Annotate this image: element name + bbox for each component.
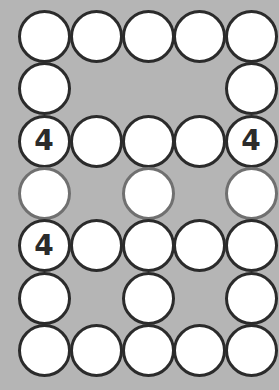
- empty-cell[interactable]: [18, 10, 71, 63]
- empty-cell[interactable]: [70, 324, 123, 377]
- empty-cell[interactable]: [225, 272, 278, 325]
- empty-cell[interactable]: [18, 272, 71, 325]
- empty-cell[interactable]: [122, 324, 175, 377]
- puzzle-board: 444: [0, 0, 279, 390]
- numbered-cell[interactable]: 4: [18, 115, 71, 168]
- empty-cell[interactable]: [122, 115, 175, 168]
- empty-cell[interactable]: [122, 10, 175, 63]
- empty-cell[interactable]: [173, 324, 226, 377]
- empty-cell[interactable]: [173, 115, 226, 168]
- numbered-cell[interactable]: 4: [18, 219, 71, 272]
- cell-number: 4: [241, 127, 260, 155]
- empty-cell[interactable]: [122, 219, 175, 272]
- empty-cell[interactable]: [173, 219, 226, 272]
- empty-cell[interactable]: [70, 10, 123, 63]
- empty-cell[interactable]: [225, 62, 278, 115]
- numbered-cell[interactable]: 4: [225, 115, 278, 168]
- empty-cell[interactable]: [70, 115, 123, 168]
- empty-cell[interactable]: [173, 10, 226, 63]
- empty-cell[interactable]: [225, 10, 278, 63]
- empty-cell[interactable]: [70, 219, 123, 272]
- empty-cell[interactable]: [225, 324, 278, 377]
- empty-cell[interactable]: [225, 167, 278, 220]
- empty-cell[interactable]: [122, 167, 175, 220]
- empty-cell[interactable]: [225, 219, 278, 272]
- empty-cell[interactable]: [18, 167, 71, 220]
- cell-number: 4: [34, 127, 53, 155]
- cell-number: 4: [34, 232, 53, 260]
- empty-cell[interactable]: [18, 324, 71, 377]
- empty-cell[interactable]: [18, 62, 71, 115]
- empty-cell[interactable]: [122, 272, 175, 325]
